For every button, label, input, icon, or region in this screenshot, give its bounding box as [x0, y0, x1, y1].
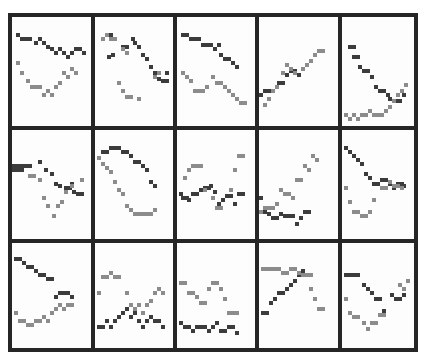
light-series-point — [348, 117, 352, 121]
light-series-point — [109, 170, 113, 174]
light-series-point — [205, 85, 209, 89]
light-series-point — [352, 210, 360, 214]
light-series-point — [101, 37, 105, 41]
light-series-point — [392, 99, 396, 103]
light-series-point — [309, 287, 313, 291]
dark-series-point — [213, 190, 217, 194]
light-series-point — [275, 85, 279, 89]
light-series-point — [64, 190, 68, 194]
dark-series-point — [227, 325, 235, 329]
sparkline-tile-r1c1 — [8, 13, 92, 127]
dark-series-point — [58, 184, 62, 188]
dark-series-point — [344, 273, 360, 277]
dark-series-point — [352, 55, 360, 59]
light-series-point — [233, 168, 237, 172]
light-series-point — [400, 89, 404, 93]
dark-series-point — [235, 331, 239, 335]
dark-series-point — [24, 164, 32, 168]
light-series-point — [291, 196, 295, 200]
dark-series-point — [44, 168, 48, 172]
sparkline-tile-r2c2 — [91, 126, 175, 240]
dark-series-point — [378, 89, 386, 93]
light-series-point — [133, 212, 153, 216]
light-series-point — [404, 83, 408, 87]
light-series-point — [50, 93, 54, 97]
light-series-point — [54, 85, 58, 89]
dark-series-point — [283, 214, 295, 218]
dark-series-point — [271, 216, 279, 220]
dark-series-point — [109, 146, 121, 150]
light-series-point — [133, 307, 137, 311]
light-series-point — [14, 311, 18, 315]
light-series-point — [101, 275, 109, 279]
dark-series-point — [113, 319, 117, 323]
light-series-point — [179, 281, 187, 285]
light-series-point — [313, 53, 317, 57]
light-series-point — [42, 196, 46, 200]
light-series-point — [370, 321, 378, 325]
dark-series-point — [297, 73, 301, 77]
grid-horizontal-line — [8, 348, 418, 352]
light-series-point — [317, 307, 325, 311]
light-series-point — [372, 113, 384, 117]
dark-series-point — [109, 325, 113, 329]
light-series-point — [66, 303, 74, 307]
light-series-point — [215, 206, 223, 210]
dark-series-point — [207, 329, 211, 333]
light-series-point — [50, 311, 54, 315]
light-series-point — [352, 315, 360, 319]
dark-series-point — [402, 293, 406, 297]
light-series-point — [227, 311, 239, 315]
dark-series-point — [70, 295, 74, 299]
grid-vertical-line — [414, 13, 418, 352]
dark-series-point — [145, 168, 149, 172]
dark-series-point — [394, 297, 402, 301]
dark-series-point — [360, 162, 364, 166]
light-series-point — [259, 210, 263, 214]
light-series-point — [215, 81, 223, 85]
light-series-point — [380, 186, 388, 190]
dark-series-point — [125, 307, 129, 311]
light-series-point — [16, 61, 20, 65]
light-series-point — [153, 208, 157, 212]
dark-series-point — [101, 150, 109, 154]
light-series-point — [223, 297, 227, 301]
light-series-point — [263, 103, 267, 107]
dark-series-point — [82, 51, 86, 55]
light-series-point — [60, 200, 64, 204]
sparkline-tile-r3c4 — [255, 239, 339, 353]
light-series-point — [80, 178, 84, 182]
light-series-point — [344, 186, 348, 190]
light-series-point — [400, 186, 404, 190]
grid-vertical-line — [173, 13, 177, 352]
dark-series-point — [54, 295, 58, 299]
grid-horizontal-line — [8, 239, 418, 243]
light-series-point — [187, 291, 195, 295]
grid-vertical-line — [338, 13, 342, 352]
dark-series-point — [273, 297, 277, 301]
light-series-point — [219, 287, 223, 291]
light-series-point — [293, 71, 297, 75]
dark-series-point — [195, 325, 207, 329]
light-series-point — [283, 192, 291, 196]
light-series-point — [97, 291, 101, 295]
dark-series-point — [133, 160, 141, 164]
dark-series-point — [14, 257, 22, 261]
dark-series-point — [299, 216, 303, 220]
light-series-point — [368, 210, 372, 214]
sparkline-tile-r3c3 — [173, 239, 257, 353]
dark-series-point — [362, 69, 370, 73]
sparkline-tile-r1c5 — [338, 13, 422, 127]
dark-series-point — [189, 37, 201, 41]
light-series-point — [317, 49, 325, 53]
dark-series-point — [54, 51, 58, 55]
light-series-point — [26, 323, 34, 327]
light-series-point — [137, 303, 141, 307]
dark-series-point — [237, 192, 245, 196]
dark-series-point — [225, 194, 233, 198]
light-series-point — [30, 85, 42, 89]
light-series-point — [392, 184, 400, 188]
dark-series-point — [74, 47, 82, 51]
grid-vertical-line — [91, 13, 95, 352]
dark-series-point — [70, 51, 74, 55]
